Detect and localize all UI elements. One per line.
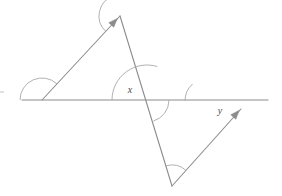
angle-x-arc (112, 65, 157, 100)
upper-left-ray (42, 16, 120, 100)
bottom-vertex-angle-arc (166, 165, 186, 170)
crossing-lower-angle-arc (153, 100, 169, 121)
geometry-figure: x y (0, 0, 282, 196)
apex-angle-arc (99, 0, 114, 31)
geometry-diagram-canvas: x y (0, 0, 282, 196)
lower-right-ray (172, 109, 241, 186)
diagram-lines-group (22, 16, 268, 186)
angle-arcs-group (20, 0, 193, 170)
angle-y-arc (185, 84, 193, 101)
long-transversal-line (120, 16, 172, 186)
angle-label-y: y (217, 105, 223, 116)
angle-label-x: x (127, 84, 133, 95)
lower-right-ray-arrowhead (231, 110, 240, 119)
left-vertex-angle-arc (20, 78, 57, 100)
